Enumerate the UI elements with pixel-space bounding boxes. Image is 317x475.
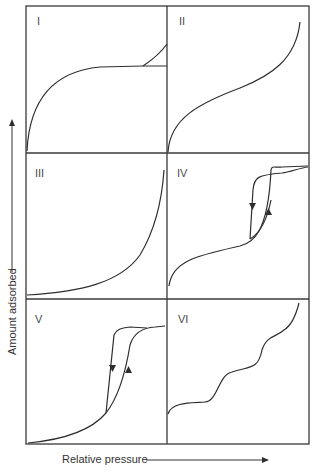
panel-label-V: V [35,313,43,325]
panel-label-II: II [179,15,185,27]
arrow-down-icon [249,203,256,210]
y-axis-label: Amount adsorbed [6,268,18,355]
arrow-right-icon [262,457,269,463]
panel-V: V [28,313,165,443]
x-axis: Relative pressure [62,453,269,465]
panel-IV: IV [169,166,308,286]
panel-label-I: I [37,15,40,27]
x-axis-label: Relative pressure [62,453,148,465]
panel-II: II [168,15,300,152]
panel-label-III: III [35,167,44,179]
panel-III: III [27,167,164,295]
panel-VI: VI [168,303,299,414]
isotherm-branch-I [143,44,167,66]
panel-label-VI: VI [178,313,188,325]
isotherm-desorption-curve-IV [250,167,308,239]
panel-label-IV: IV [177,167,188,179]
isotherm-curve-II [168,22,300,152]
arrow-up-icon [9,119,15,126]
isotherm-curve-III [27,170,164,295]
panel-grid [26,6,309,444]
panel-I: I [27,15,167,151]
isotherm-adsorption-curve-V [28,326,165,443]
isotherm-diagram: I II III IV V VI Amount adsorbed [0,0,317,475]
isotherm-adsorption-curve-IV [169,166,308,286]
isotherm-curve-I [27,66,167,151]
y-axis: Amount adsorbed [6,119,18,355]
